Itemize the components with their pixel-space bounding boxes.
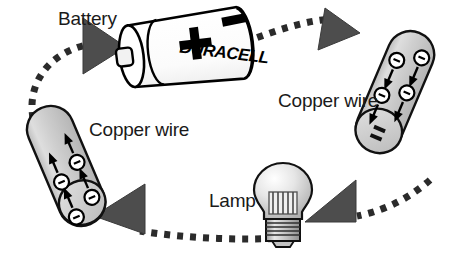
label-battery: Battery (58, 8, 117, 30)
lamp-screw-base (266, 219, 300, 247)
battery-positive-nub (116, 47, 134, 67)
label-copper-wire-left: Copper wire (89, 119, 189, 141)
arrow-to-right-wire (318, 8, 360, 50)
battery: DURACELL (112, 4, 273, 94)
circuit-diagram-canvas: DURACELL Battery Copper wire Copper wire (0, 0, 459, 255)
dash-arc-bottom-right (357, 180, 430, 216)
lamp (254, 163, 312, 247)
label-copper-wire-right: Copper wire (278, 90, 378, 112)
label-lamp: Lamp (209, 190, 256, 212)
dash-arc-top-right (245, 19, 330, 42)
circuit-diagram-svg: DURACELL (0, 0, 459, 255)
lamp-filament (269, 192, 297, 214)
